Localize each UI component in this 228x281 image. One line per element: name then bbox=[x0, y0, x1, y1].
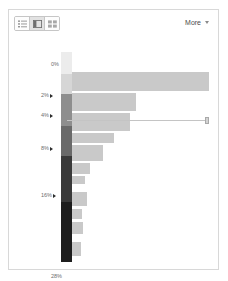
axis-tick-label: 2% bbox=[41, 93, 49, 99]
view-mode-toggle[interactable] bbox=[14, 16, 60, 31]
more-button-label: More bbox=[185, 19, 201, 26]
axis-tick-label: 4% bbox=[41, 113, 49, 119]
bar[interactable] bbox=[72, 133, 114, 143]
bar[interactable] bbox=[72, 145, 103, 161]
bar[interactable] bbox=[72, 192, 87, 206]
split-view-icon bbox=[33, 20, 42, 28]
spine-segment bbox=[61, 126, 72, 156]
bar[interactable] bbox=[72, 163, 90, 174]
axis-tick: 4% bbox=[41, 113, 53, 119]
bar[interactable] bbox=[72, 222, 83, 234]
tick-marker-icon bbox=[50, 94, 53, 98]
gradient-spine bbox=[61, 52, 72, 262]
tick-marker-icon bbox=[50, 147, 53, 151]
drag-handle-icon[interactable] bbox=[205, 117, 209, 124]
axis-tick-label: 8% bbox=[41, 146, 49, 152]
spine-segment bbox=[61, 52, 72, 74]
axis-tick: 2% bbox=[41, 93, 53, 99]
bar[interactable] bbox=[72, 242, 81, 256]
chart-panel: More 0%2%4%8%16%28% bbox=[8, 9, 219, 270]
spine-segment bbox=[61, 202, 72, 262]
axis-tick-label: 28% bbox=[51, 274, 62, 280]
axis-tick: 28% bbox=[51, 274, 62, 280]
list-view-icon bbox=[18, 20, 27, 28]
axis-tick: 0% bbox=[51, 62, 59, 68]
view-toggle-grid-button[interactable] bbox=[45, 17, 59, 30]
grid-view-icon bbox=[48, 20, 57, 28]
spine-segment bbox=[61, 156, 72, 202]
more-button[interactable]: More bbox=[181, 15, 212, 30]
axis-tick: 16% bbox=[41, 193, 56, 199]
bar[interactable] bbox=[72, 209, 82, 219]
value-connector-line bbox=[67, 120, 205, 121]
axis-tick-label: 0% bbox=[51, 62, 59, 68]
tick-marker-icon bbox=[53, 194, 56, 198]
tick-marker-icon bbox=[50, 114, 53, 118]
axis-tick: 8% bbox=[41, 146, 53, 152]
bar[interactable] bbox=[72, 113, 130, 131]
view-toggle-list-button[interactable] bbox=[15, 17, 30, 30]
view-toggle-split-button[interactable] bbox=[30, 17, 45, 30]
bar[interactable] bbox=[72, 72, 209, 91]
bar[interactable] bbox=[72, 93, 136, 111]
spine-segment bbox=[61, 74, 72, 94]
bar[interactable] bbox=[72, 176, 85, 184]
chevron-down-icon bbox=[205, 21, 209, 24]
spine-segment bbox=[61, 94, 72, 126]
toolbar: More bbox=[9, 10, 218, 38]
axis-tick-label: 16% bbox=[41, 193, 52, 199]
horizontal-bar-chart: 0%2%4%8%16%28% bbox=[9, 38, 218, 270]
